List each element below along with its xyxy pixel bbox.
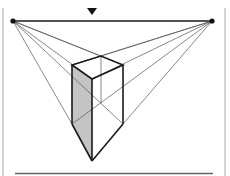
eye-level-marker-icon bbox=[87, 8, 97, 15]
perspective-diagram bbox=[0, 0, 230, 176]
right-vp-construction-lines bbox=[72, 21, 212, 124]
right-vanishing-point-icon bbox=[209, 18, 214, 23]
left-vanishing-point-icon bbox=[10, 18, 15, 23]
